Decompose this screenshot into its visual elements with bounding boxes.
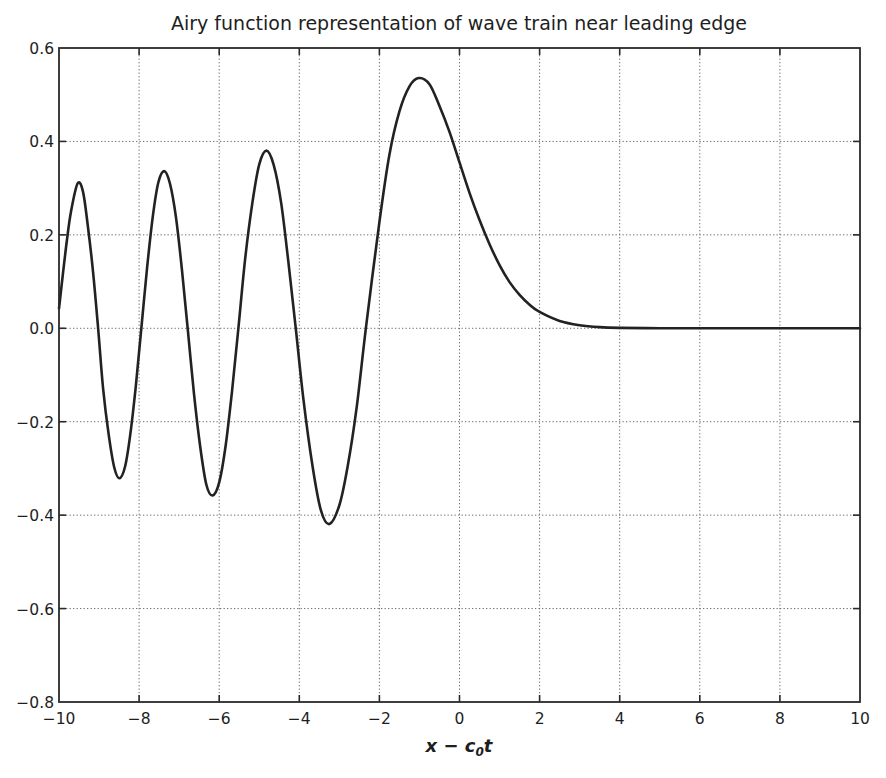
x-tick-label: 6 (695, 710, 705, 728)
x-tick-label: −10 (43, 710, 76, 728)
y-tick-label: −0.2 (16, 414, 54, 432)
x-tick-label: 2 (535, 710, 545, 728)
x-axis-tick-labels: −10−8−6−4−20246810 (43, 710, 870, 728)
x-axis-label-subscript: 0 (475, 745, 483, 759)
chart-title: Airy function representation of wave tra… (171, 12, 747, 34)
y-tick-label: 0.0 (29, 320, 54, 338)
x-tick-label: 10 (850, 710, 870, 728)
y-tick-label: −0.4 (16, 507, 54, 525)
x-tick-label: 4 (615, 710, 625, 728)
chart: Airy function representation of wave tra… (0, 0, 886, 778)
x-tick-label: 0 (455, 710, 465, 728)
x-axis-label: x − c0t (425, 735, 494, 759)
x-tick-label: −6 (208, 710, 231, 728)
y-tick-label: −0.6 (16, 601, 54, 619)
gridlines (59, 48, 860, 702)
y-tick-label: 0.2 (29, 227, 54, 245)
y-tick-label: 0.4 (29, 133, 54, 151)
x-tick-label: −8 (128, 710, 151, 728)
x-axis-label-main: x − c (425, 735, 476, 756)
y-axis-tick-labels: 0.60.40.20.0−0.2−0.4−0.6−0.8 (16, 40, 54, 712)
y-tick-label: 0.6 (29, 40, 54, 58)
x-tick-label: −4 (288, 710, 311, 728)
x-tick-label: −2 (368, 710, 391, 728)
x-axis-label-tail: t (484, 735, 494, 756)
x-tick-label: 8 (775, 710, 785, 728)
